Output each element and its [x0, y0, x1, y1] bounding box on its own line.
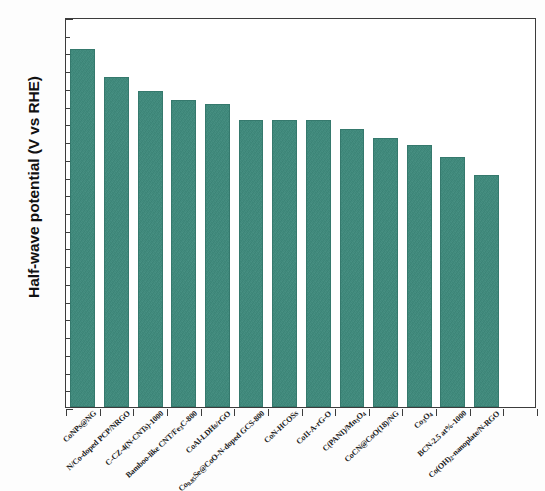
- x-axis-tick-label: Co(OH)2-nanoplate/N-RGO: [427, 409, 502, 480]
- bar: [440, 157, 465, 407]
- bar: [70, 49, 95, 407]
- x-axis-tick-label-text: C-CZ-4(N-CNTs)-1000: [104, 409, 166, 467]
- bar: [239, 120, 264, 407]
- bar: [474, 175, 499, 407]
- x-axis-tick-label: N/Co-doped PCP/NRGO: [65, 409, 132, 472]
- x-axis-tick-label-text: Co(OH): [427, 455, 453, 480]
- bar: [272, 120, 297, 407]
- y-axis-title: Half-wave potential (V vs RHE): [25, 27, 43, 347]
- plot-area: [65, 18, 536, 408]
- x-axis-tick-label-suffix: C-800: [178, 409, 199, 429]
- bar: [104, 77, 129, 407]
- bar-chart: Half-wave potential (V vs RHE) 0.00.10.2…: [0, 0, 545, 491]
- bar: [373, 138, 398, 407]
- bar: [407, 145, 432, 407]
- x-axis-tick-label: Co3O4: [412, 409, 434, 430]
- bar: [340, 129, 365, 407]
- x-axis-tick-labels: CoNPs@NGN/Co-doped PCP/NRGOC-CZ-4(N-CNTs…: [0, 409, 545, 491]
- x-axis-tick-label-suffix: Se@CoO-N-doped GCS-800: [191, 409, 266, 480]
- bar: [306, 120, 331, 407]
- bar: [205, 104, 230, 407]
- bar: [138, 91, 163, 407]
- x-axis-tick-label: C-CZ-4(N-CNTs)-1000: [104, 409, 166, 467]
- bar-series: [66, 19, 535, 407]
- x-axis-tick-label-text: N/Co-doped PCP/NRGO: [65, 409, 132, 472]
- bar: [171, 100, 196, 407]
